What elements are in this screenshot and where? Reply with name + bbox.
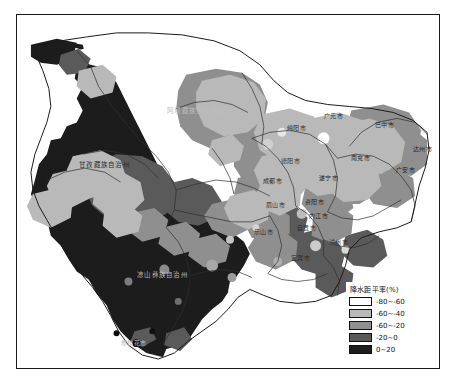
legend-swatch — [349, 345, 372, 354]
map-figure-frame: 阿坝藏族羌族自治州 甘孜藏族自治州 凉山彝族自治州 绵阳市 广元市 巴中市 达州… — [16, 14, 440, 369]
legend-item: -20~0 — [349, 332, 428, 343]
legend-label: -80~-60 — [376, 298, 405, 306]
legend-item: -80~-60 — [349, 296, 428, 307]
legend-swatch — [349, 297, 372, 306]
legend-label: -20~0 — [376, 334, 398, 342]
legend-swatch — [349, 309, 372, 318]
legend-item: -60~-40 — [349, 308, 428, 319]
label-suining: 遂宁市 — [319, 175, 338, 181]
label-guangyuan: 广元市 — [324, 113, 343, 119]
legend-swatch — [349, 333, 372, 342]
label-dazhou: 达州市 — [413, 146, 432, 152]
legend-item: -60~-20 — [349, 320, 428, 331]
legend-item: 0~20 — [349, 344, 428, 355]
label-ganzi: 甘孜藏族自治州 — [79, 162, 130, 169]
label-leshan: 乐山市 — [254, 229, 273, 235]
label-panzhihua: 攀枝花市 — [121, 340, 146, 346]
label-guangan: 广安市 — [396, 167, 415, 173]
label-zigong: 自贡市 — [297, 225, 316, 231]
legend-label: 0~20 — [376, 346, 395, 354]
label-nanchong: 南充市 — [351, 155, 370, 161]
legend-label: -60~-20 — [376, 322, 405, 330]
label-luzhou: 泸州市 — [329, 239, 348, 245]
legend-swatch — [349, 321, 372, 330]
label-deyang: 德阳市 — [281, 158, 300, 164]
legend-title: 降水距平率(%) — [350, 284, 428, 294]
label-mianyang: 绵阳市 — [287, 125, 306, 131]
label-liangshan: 凉山彝族自治州 — [137, 272, 188, 279]
label-bazhong: 巴中市 — [375, 122, 394, 128]
label-meishan: 眉山市 — [266, 202, 285, 208]
label-aba: 阿坝藏族羌族自治州 — [167, 108, 233, 115]
label-yibin: 宜宾市 — [291, 255, 310, 261]
legend: 降水距平率(%) -80~-60 -60~-40 -60~-20 -20~0 0… — [346, 282, 430, 359]
label-ziyang: 资阳市 — [305, 199, 324, 205]
legend-label: -60~-40 — [376, 310, 405, 318]
label-chengdu: 成都市 — [263, 178, 282, 184]
label-neijiang: 内江市 — [309, 213, 328, 219]
